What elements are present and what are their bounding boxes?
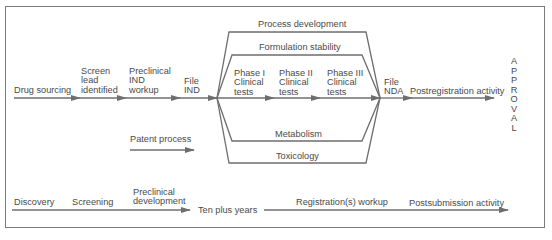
label-phase-1: Phase I Clinical tests [234, 69, 265, 97]
label-registration-workup: Registration(s) workup [296, 198, 388, 207]
label-formulation-stability: Formulation stability [259, 43, 341, 52]
label-ten-plus-years: Ten plus years [198, 206, 257, 215]
label-postsubmission: Postsubmission activity [409, 199, 504, 208]
label-screen-lead: Screen lead identified [81, 67, 118, 95]
label-file-ind: File IND [184, 77, 200, 96]
label-postregistration: Postregistration activity [410, 87, 504, 96]
label-file-nda: File NDA [384, 78, 403, 97]
label-preclinical-development: Preclinical development [133, 188, 186, 207]
label-phase-2: Phase II Clinical tests [279, 69, 313, 97]
label-metabolism: Metabolism [275, 130, 322, 139]
label-toxicology: Toxicology [276, 152, 319, 161]
label-patent-process: Patent process [130, 135, 191, 144]
label-drug-sourcing: Drug sourcing [14, 86, 71, 95]
label-phase-3: Phase III Clinical tests [327, 69, 363, 97]
label-process-development: Process development [258, 20, 346, 29]
label-approval: A P P R O V A L [509, 57, 519, 133]
label-screening: Screening [72, 198, 113, 207]
label-preclinical-ind: Preclinical IND workup [129, 67, 171, 95]
label-discovery: Discovery [14, 198, 54, 207]
